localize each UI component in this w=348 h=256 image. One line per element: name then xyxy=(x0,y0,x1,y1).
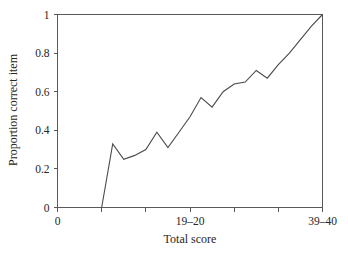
x-tick-label: 19–20 xyxy=(176,215,205,227)
y-axis-tick-labels: 10.80.60.40.20 xyxy=(35,9,50,214)
x-tick-label: 39–40 xyxy=(308,215,337,227)
plot-frame xyxy=(58,15,323,208)
y-tick-label: 0 xyxy=(44,202,50,214)
x-axis-tick-labels: 019–2039–40 xyxy=(55,215,338,227)
chart-figure: 10.80.60.40.20 019–2039–40 Proportion co… xyxy=(0,0,348,256)
data-line-proportion-correct xyxy=(102,15,323,208)
y-axis-ticks xyxy=(54,15,58,208)
y-tick-label: 0.6 xyxy=(35,86,50,98)
x-tick-label: 0 xyxy=(55,215,61,227)
y-tick-label: 0.2 xyxy=(35,163,50,175)
line-chart: 10.80.60.40.20 019–2039–40 Proportion co… xyxy=(0,0,348,256)
y-tick-label: 0.4 xyxy=(35,124,50,136)
x-axis-ticks xyxy=(58,208,323,212)
y-tick-label: 1 xyxy=(44,9,50,21)
axis-frame xyxy=(58,15,323,208)
y-axis-title: Proportion correct item xyxy=(6,53,20,166)
x-axis-title: Total score xyxy=(164,232,217,246)
data-series-group xyxy=(102,15,323,208)
y-tick-label: 0.8 xyxy=(35,47,50,59)
